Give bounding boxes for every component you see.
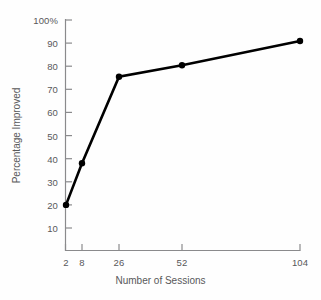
data-point (79, 160, 85, 166)
x-tick-label-2: 2 (63, 257, 68, 268)
y-tick-label-10: 10 (0, 223, 58, 234)
line-chart: 100% 90 80 70 60 50 40 30 20 10 2 8 26 5… (0, 0, 321, 300)
y-tick-label-60: 60 (0, 107, 58, 118)
y-tick-label-30: 30 (0, 177, 58, 188)
data-point (297, 38, 303, 44)
y-tick-label-50: 50 (0, 131, 58, 142)
y-tick-label-80: 80 (0, 61, 58, 72)
y-axis-title: Percentage Improved (11, 66, 22, 206)
x-tick-label-104: 104 (292, 257, 308, 268)
x-tick-label-26: 26 (114, 257, 125, 268)
x-tick-label-52: 52 (177, 257, 188, 268)
data-point (116, 74, 122, 80)
data-point (63, 202, 69, 208)
y-tick-label-100: 100% (0, 15, 58, 26)
y-tick-label-90: 90 (0, 38, 58, 49)
y-tick-label-70: 70 (0, 84, 58, 95)
x-tick-label-8: 8 (79, 257, 84, 268)
y-tick-label-20: 20 (0, 200, 58, 211)
x-tick-marks (66, 244, 301, 251)
data-point (179, 62, 185, 68)
y-tick-label-40: 40 (0, 154, 58, 165)
x-axis-title: Number of Sessions (0, 275, 321, 286)
